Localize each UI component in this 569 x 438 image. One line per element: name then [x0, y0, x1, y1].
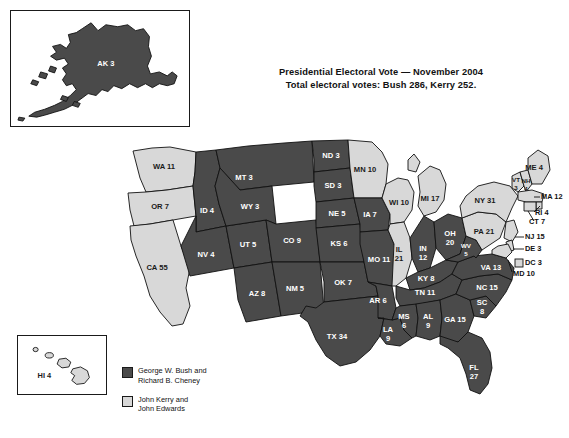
state-WA [133, 147, 196, 192]
state-UT [226, 220, 272, 268]
svg-text:MD 10: MD 10 [513, 269, 535, 278]
state-IN [410, 216, 436, 272]
state-NE [316, 198, 360, 228]
legend-label-bush: George W. Bush and Richard B. Cheney [138, 366, 207, 386]
electoral-map-figure: Presidential Electoral Vote — November 2… [0, 0, 569, 438]
state-NJ [504, 220, 518, 242]
svg-text:CT 7: CT 7 [529, 217, 545, 226]
svg-text:DE 3: DE 3 [525, 244, 541, 253]
svg-text:MA 12: MA 12 [541, 192, 563, 201]
state-OR [128, 186, 196, 226]
state-MI [408, 154, 446, 216]
state-MN [348, 140, 388, 198]
svg-text:NJ 15: NJ 15 [525, 232, 545, 241]
legend-row-kerry: John Kerry and John Edwards [122, 395, 242, 415]
legend-swatch-bush [122, 367, 133, 378]
legend-label-kerry: John Kerry and John Edwards [138, 395, 188, 415]
state-AL [416, 300, 442, 340]
svg-text:RI 4: RI 4 [535, 208, 549, 217]
state-CA [130, 220, 190, 326]
map-legend: George W. Bush and Richard B. Cheney Joh… [122, 366, 242, 423]
state-FL [440, 332, 492, 394]
callout-RI: RI 4 [534, 206, 549, 217]
state-ME [528, 150, 550, 184]
state-ND [312, 140, 350, 172]
callout-DE: DE 3 [513, 244, 541, 253]
contiguous-us-map: WA 11 OR 7 CA 55 ID 4 NV 4 UT 5 AZ 8 MT … [0, 0, 569, 438]
svg-text:DC 3: DC 3 [525, 258, 542, 267]
state-SD [314, 168, 354, 202]
legend-swatch-kerry [122, 396, 133, 407]
state-CO [266, 220, 320, 262]
dc-swatch [515, 259, 523, 267]
callout-DC: DC 3 [515, 258, 542, 267]
callout-NJ: NJ 15 [515, 232, 545, 241]
legend-row-bush: George W. Bush and Richard B. Cheney [122, 366, 242, 386]
state-KS [316, 224, 364, 262]
